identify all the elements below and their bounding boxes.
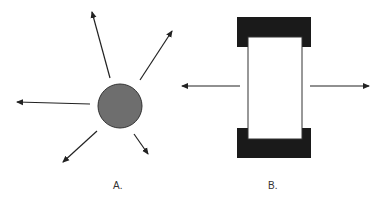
arrow-up-right	[140, 31, 172, 80]
sphere-shape	[98, 84, 142, 128]
arrow-left	[17, 102, 90, 104]
arrow-down-right	[134, 134, 148, 154]
panel-a: A.	[17, 12, 172, 191]
panel-a-label: A.	[113, 180, 122, 191]
arrow-up	[92, 12, 110, 78]
diagram-canvas: A. B.	[0, 0, 384, 198]
panel-b-label: B.	[268, 180, 277, 191]
central-rectangle	[248, 37, 302, 139]
panel-b: B.	[182, 17, 369, 191]
arrow-down-left	[63, 131, 97, 162]
